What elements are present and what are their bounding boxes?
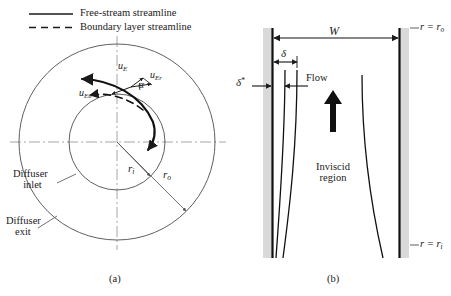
- alpha-angle-label: α: [139, 80, 144, 90]
- legend-item-boundary-layer-label: Boundary layer streamline: [80, 21, 191, 32]
- panel-a-caption: (a): [109, 273, 121, 284]
- velocity-resultant-label: uE: [118, 61, 127, 73]
- panel-b-caption: (b): [327, 273, 339, 284]
- outer-radius-equation-label: r = ro: [420, 21, 444, 34]
- velocity-tangential-label: uEθ: [79, 88, 92, 100]
- figure-vector-graphics: [0, 0, 451, 296]
- figure-container: Free-stream streamline Boundary layer st…: [0, 0, 451, 296]
- inviscid-region-label: Inviscid region: [301, 161, 365, 184]
- diffuser-exit-label: Diffuser exit: [6, 215, 41, 238]
- width-label: W: [329, 25, 339, 38]
- left-boundary-layer-edge-outer: [276, 70, 285, 258]
- free-stream-streamline-inner-tail: [148, 122, 155, 150]
- velocity-triangle: [112, 78, 152, 94]
- displacement-thickness-label: δ*: [236, 77, 245, 89]
- legend-item-free-stream-label: Free-stream streamline: [80, 7, 177, 18]
- diffuser-inlet-leader: [57, 174, 76, 183]
- flow-arrow: [324, 90, 342, 132]
- panel-b-graphics: [252, 28, 419, 258]
- inner-radius-equation-label: r = ri: [420, 238, 443, 251]
- boundary-layer-thickness-label: δ: [281, 48, 286, 60]
- diffuser-inlet-label: Diffuser inlet: [13, 168, 48, 191]
- velocity-radial-label: uEr: [150, 70, 162, 82]
- flow-label: Flow: [306, 72, 328, 83]
- right-wall-band: [400, 28, 409, 258]
- inner-radius-label: ri: [128, 163, 134, 176]
- legend-sample-lines: [29, 14, 73, 28]
- outer-radius-arrow: [117, 142, 186, 211]
- right-boundary-layer-edge: [362, 75, 383, 258]
- left-wall-band: [263, 28, 272, 258]
- outer-radius-label: ro: [163, 169, 171, 182]
